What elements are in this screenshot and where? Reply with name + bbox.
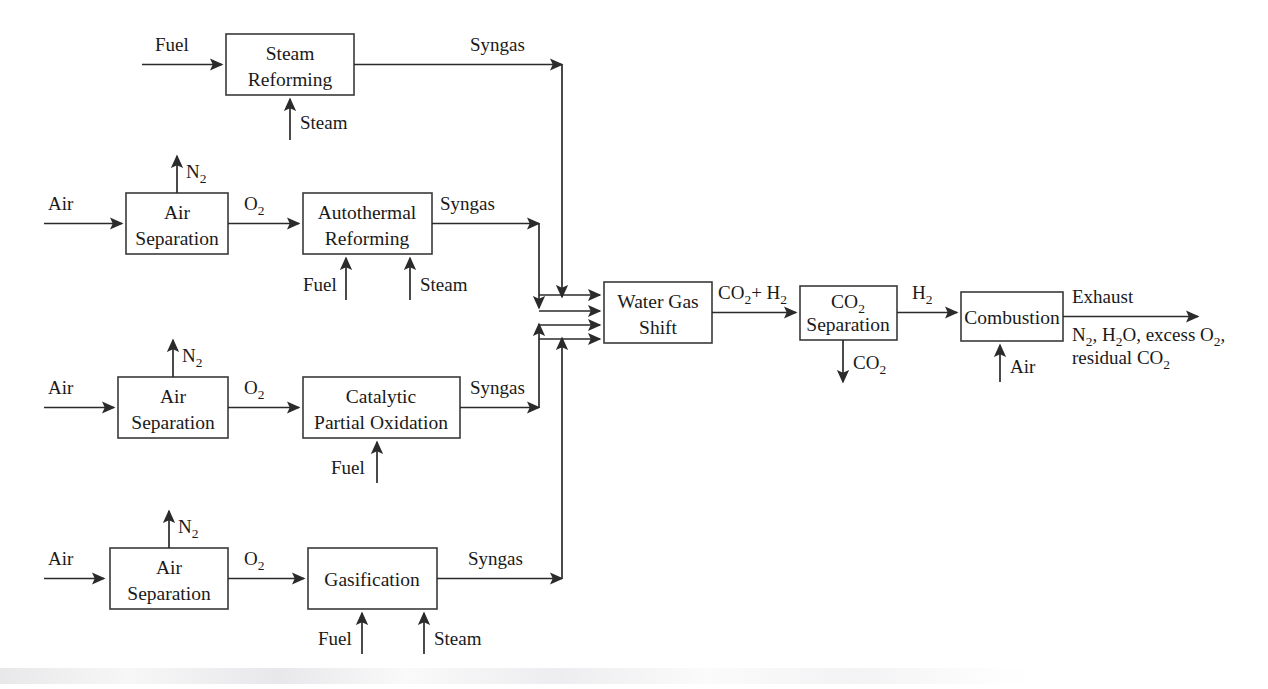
diagram-canvas: Fuel Steam Reforming Steam Syngas Air Ai… [0,0,1268,689]
air-label-row2: Air [48,193,74,214]
syngas-junction [539,295,600,339]
fuel-label-row3: Fuel [331,457,365,478]
oxygen-label-row4: O2 [244,548,264,573]
exhaust-detail-line2: residual CO2 [1072,347,1170,372]
box-co2-separation-line2: Separation [806,314,890,335]
air-label-combustion: Air [1010,356,1036,377]
row-catalytic-partial-oxidation: Air Air Separation N2 O2 Catalytic Parti… [44,324,539,483]
box-combustion-line1: Combustion [964,307,1060,328]
box-gasification-line1: Gasification [324,569,420,590]
box-water-gas-shift-line1: Water Gas [617,291,698,312]
syngas-label-row4: Syngas [468,548,523,569]
box-water-gas-shift-line2: Shift [639,317,678,338]
box-autothermal-reforming-line1: Autothermal [318,202,417,223]
nitrogen-label-row3: N2 [182,345,202,370]
box-air-separation-1-line1: Air [164,202,191,223]
row-autothermal-reforming: Air Air Separation N2 O2 Autothermal Ref… [44,156,539,308]
air-label-row4: Air [48,548,74,569]
nitrogen-label-row2: N2 [186,161,206,186]
exhaust-label: Exhaust [1072,286,1134,307]
steam-label-row1: Steam [300,112,348,133]
oxygen-label-row2: O2 [244,193,264,218]
nitrogen-label-row4: N2 [178,516,198,541]
syngas-label-row1: Syngas [470,34,525,55]
downstream-chain: Water Gas Shift CO2+ H2 CO2 Separation C… [604,282,1225,382]
box-steam-reforming-line2: Reforming [248,69,333,90]
box-air-separation-2-line2: Separation [131,412,215,433]
oxygen-label-row3: O2 [244,377,264,402]
syngas-label-row3: Syngas [470,377,525,398]
h2-label: H2 [912,282,932,307]
fuel-label-row4: Fuel [318,628,352,649]
process-flow-diagram: Fuel Steam Reforming Steam Syngas Air Ai… [0,0,1268,689]
fuel-label-row2: Fuel [303,274,337,295]
steam-label-row2: Steam [420,274,468,295]
box-air-separation-3-line1: Air [156,557,183,578]
row-steam-reforming: Fuel Steam Reforming Steam Syngas [142,34,562,297]
co2-h2-label: CO2+ H2 [718,282,787,307]
fuel-label-row1: Fuel [155,34,189,55]
box-steam-reforming-line1: Steam [266,43,315,64]
box-air-separation-2-line1: Air [160,386,187,407]
box-air-separation-3-line2: Separation [127,583,211,604]
steam-label-row4: Steam [434,628,482,649]
box-autothermal-reforming-line2: Reforming [325,228,410,249]
box-catalytic-partial-oxidation-line2: Partial Oxidation [314,412,448,433]
box-air-separation-1-line2: Separation [135,228,219,249]
syngas-label-row2: Syngas [440,193,495,214]
co2-output-label: CO2 [853,352,886,377]
air-label-row3: Air [48,377,74,398]
box-catalytic-partial-oxidation-line1: Catalytic [346,386,417,407]
exhaust-detail-line1: N2, H2O, excess O2, [1072,324,1225,349]
